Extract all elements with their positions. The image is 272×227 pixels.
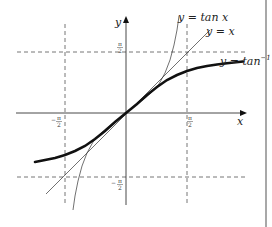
x-axis-label: x	[237, 115, 244, 128]
label-arctan-main: y = tan	[219, 55, 261, 68]
label-identity: y = x	[205, 25, 235, 38]
svg-text:π: π	[118, 177, 122, 184]
svg-text:π: π	[188, 114, 192, 121]
svg-text:2: 2	[118, 47, 122, 54]
page-border	[265, 0, 267, 227]
svg-text:π: π	[118, 40, 122, 47]
label-tan: y = tan x	[177, 11, 229, 24]
svg-text:2: 2	[57, 121, 61, 128]
y-axis-arrow-icon	[123, 16, 129, 23]
curve-arctan	[35, 62, 243, 163]
svg-text:2: 2	[118, 184, 122, 191]
svg-text:−: −	[51, 116, 56, 123]
svg-text:π: π	[57, 114, 61, 121]
label-arctan-var: x	[271, 55, 272, 68]
tick-label-x-neg-pi-over-2: − π 2	[51, 114, 62, 128]
svg-text:−: −	[111, 179, 116, 186]
function-graph: y x y = tan x y = x y = tan−1 x π 2 − π …	[0, 0, 272, 227]
tick-label-x-pi-over-2: π 2	[187, 114, 193, 128]
y-axis-label: y	[114, 16, 122, 29]
svg-text:2: 2	[188, 121, 192, 128]
tick-label-y-neg-pi-over-2: − π 2	[111, 177, 123, 191]
